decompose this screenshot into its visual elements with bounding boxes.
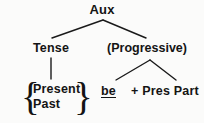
tense-options-group: { Present Past } (20, 80, 94, 116)
node-progressive: (Progressive) (95, 42, 199, 55)
syntax-tree-diagram: Aux Tense (Progressive) { Present Past }… (0, 0, 204, 123)
right-curly-brace-icon: } (74, 77, 93, 116)
edge-aux-to-tense (52, 20, 103, 38)
edge-progressive-to-prespart (150, 60, 176, 80)
node-aux: Aux (0, 3, 204, 16)
node-tense: Tense (22, 42, 80, 55)
node-pres-part: + Pres Part (131, 85, 199, 98)
edge-progressive-to-be (116, 60, 150, 80)
node-be: be (101, 85, 116, 98)
edge-aux-to-progressive (103, 20, 146, 38)
